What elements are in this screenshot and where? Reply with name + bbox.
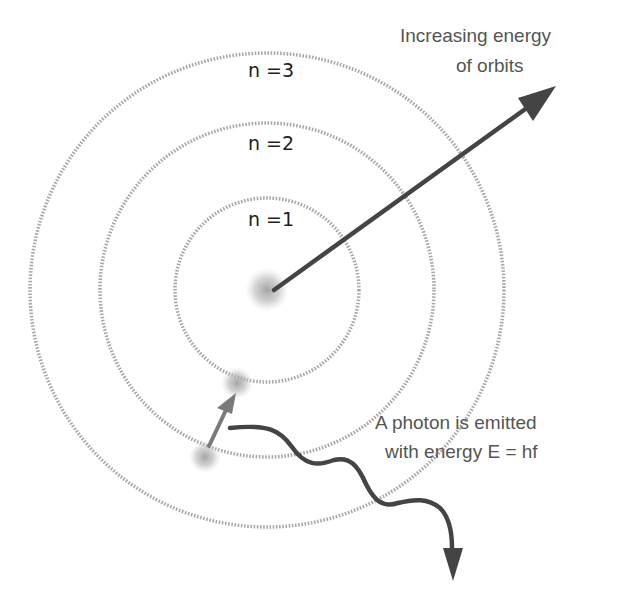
orbit-label-n1: n =1 xyxy=(248,208,294,230)
photon-caption-line2: with energy E = hf xyxy=(384,441,538,462)
bohr-model-diagram: n =3 n =2 n =1 Increasing energy of orbi… xyxy=(0,0,618,607)
orbit-label-n3: n =3 xyxy=(248,59,294,81)
energy-caption-line1: Increasing energy xyxy=(400,25,552,46)
electron-initial xyxy=(189,441,221,473)
electron-final xyxy=(221,367,253,399)
energy-arrow-icon xyxy=(274,86,556,290)
energy-caption-line2: of orbits xyxy=(456,55,524,76)
nucleus xyxy=(245,268,289,312)
orbit-label-n2: n =2 xyxy=(248,132,294,154)
photon-caption-line1: A photon is emitted xyxy=(375,412,537,433)
transition-arrow-icon xyxy=(209,393,236,446)
